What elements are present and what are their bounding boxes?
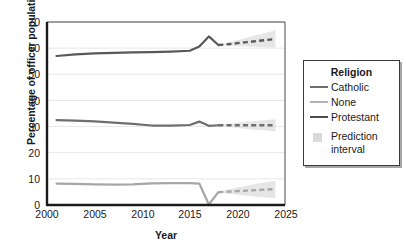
chart-container: Percentage of officer population Year 70… <box>0 0 406 251</box>
legend-item-none[interactable]: None <box>304 96 399 108</box>
legend-label-catholic: Catholic <box>329 81 369 93</box>
legend: Religion Catholic None Protestant Predic… <box>303 60 400 166</box>
plot-frame <box>46 22 285 205</box>
legend-line-swatch-catholic <box>309 81 329 93</box>
legend-title: Religion <box>304 66 399 78</box>
legend-item-prediction-interval[interactable]: Predictioninterval <box>304 130 399 155</box>
legend-line-swatch-protestant <box>309 111 329 123</box>
legend-line-swatch-none <box>309 96 329 108</box>
prediction-interval-bands <box>218 30 275 198</box>
legend-item-protestant[interactable]: Protestant <box>304 111 399 123</box>
legend-label-none: None <box>329 96 356 108</box>
legend-box-swatch-prediction-interval <box>309 130 329 142</box>
legend-label-protestant: Protestant <box>329 111 379 123</box>
legend-item-catholic[interactable]: Catholic <box>304 81 399 93</box>
legend-label-prediction-interval: Predictioninterval <box>329 130 378 155</box>
